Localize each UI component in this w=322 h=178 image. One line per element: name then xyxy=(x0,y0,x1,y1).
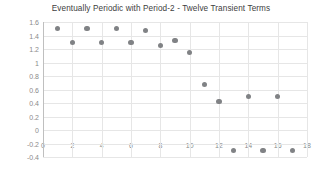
gridline-horizontal xyxy=(43,76,307,77)
gridline-horizontal xyxy=(43,103,307,104)
data-point xyxy=(84,26,89,31)
data-point xyxy=(128,40,133,45)
chart-title: Eventually Periodic with Period-2 - Twel… xyxy=(0,4,322,13)
data-point xyxy=(143,28,148,33)
gridline-horizontal xyxy=(43,90,307,91)
gridline-horizontal xyxy=(43,49,307,50)
y-tick-label: -0.4 xyxy=(3,154,39,161)
data-point xyxy=(99,40,104,45)
data-point xyxy=(290,148,295,153)
gridline-vertical xyxy=(219,22,220,157)
gridline-horizontal xyxy=(43,130,307,131)
scatter-chart: Eventually Periodic with Period-2 - Twel… xyxy=(0,0,322,178)
gridline-horizontal xyxy=(43,144,307,145)
gridline-horizontal xyxy=(43,117,307,118)
data-point xyxy=(260,148,265,153)
y-tick-label: 0.4 xyxy=(3,100,39,107)
gridline-vertical xyxy=(190,22,191,157)
data-point xyxy=(216,99,221,104)
gridline-horizontal xyxy=(43,36,307,37)
data-point xyxy=(231,148,236,153)
data-point xyxy=(172,38,177,43)
data-point xyxy=(70,40,75,45)
y-tick-label: 0.2 xyxy=(3,113,39,120)
data-point xyxy=(187,50,192,55)
data-point xyxy=(275,94,280,99)
y-axis-line xyxy=(43,22,44,157)
data-point xyxy=(246,94,251,99)
gridline-horizontal xyxy=(43,63,307,64)
y-tick-label: 0.6 xyxy=(3,86,39,93)
y-tick-label: 1.4 xyxy=(3,32,39,39)
y-tick-label: 0 xyxy=(3,127,39,134)
data-point xyxy=(55,26,60,31)
data-point xyxy=(114,26,119,31)
gridline-vertical xyxy=(278,22,279,157)
gridline-horizontal xyxy=(43,22,307,23)
data-point xyxy=(158,43,163,48)
y-tick-label: 1.2 xyxy=(3,46,39,53)
gridline-vertical xyxy=(307,22,308,157)
gridline-horizontal xyxy=(43,157,307,158)
plot-area xyxy=(43,22,307,157)
y-tick-label: 1.6 xyxy=(3,19,39,26)
gridline-vertical xyxy=(248,22,249,157)
y-tick-label: 1 xyxy=(3,59,39,66)
y-tick-label: 0.8 xyxy=(3,73,39,80)
data-point xyxy=(202,82,207,87)
